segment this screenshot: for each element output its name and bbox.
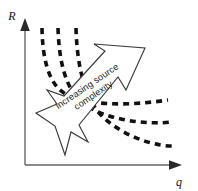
figure-container: R q increasing source complexity <box>0 0 198 191</box>
x-axis-arrowhead <box>169 160 182 170</box>
y-axis-arrowhead <box>20 18 30 31</box>
y-axis-label: R <box>7 9 16 23</box>
x-axis-label: q <box>176 175 182 189</box>
diagram-canvas: R q increasing source complexity <box>0 0 198 191</box>
